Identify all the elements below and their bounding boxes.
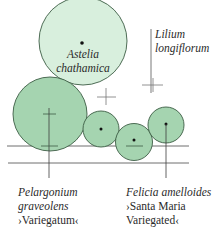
pelargonium-name-line2: graveolens: [18, 199, 79, 213]
felicia-circle-2: [116, 124, 153, 161]
astelia-label: Astelia chathamica: [52, 47, 114, 75]
lilium-name-line1: Lilium: [155, 27, 209, 41]
pelargonium-cultivar: ›Variegatum‹: [18, 213, 79, 227]
felicia-dot-2: [133, 139, 136, 142]
felicia-dot-1: [100, 128, 103, 131]
felicia-name-line1: Felicia amelloides: [126, 185, 211, 199]
felicia-label: Felicia amelloides ›Santa Maria Variegat…: [126, 185, 211, 227]
pelargonium-name-line1: Pelargonium: [18, 185, 79, 199]
lilium-label: Lilium longiflorum: [155, 27, 209, 55]
astelia-name-line2: chathamica: [52, 61, 114, 75]
pelargonium-label: Pelargonium graveolens ›Variegatum‹: [18, 185, 79, 227]
felicia-cultivar-line2: Variegated‹: [126, 213, 211, 227]
lilium-name-line2: longiflorum: [155, 41, 209, 55]
astelia-center-dot: [80, 41, 84, 45]
felicia-cultivar-line1: ›Santa Maria: [126, 199, 211, 213]
astelia-name-line1: Astelia: [52, 47, 114, 61]
